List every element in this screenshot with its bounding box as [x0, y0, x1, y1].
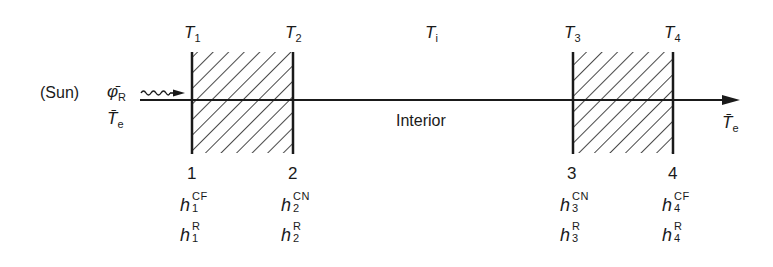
- ext-temp-left-symbol: T̄: [107, 109, 117, 128]
- temp-subscript: 4: [674, 32, 680, 44]
- temp-subscript: 3: [574, 32, 580, 44]
- temp-Ti: Ti: [425, 24, 438, 41]
- h-symbol: h: [281, 195, 291, 215]
- rad-coeff-4: h R4: [662, 225, 672, 246]
- surface-number-1: 1: [187, 165, 196, 182]
- rad-coeff-2: h R2: [281, 225, 291, 246]
- temp-T3: T3: [564, 24, 581, 41]
- sun-label: (Sun): [40, 85, 79, 101]
- coeff-superscript: CF: [192, 191, 208, 202]
- coeff-subscript: 3: [572, 203, 578, 214]
- surface-number-2: 2: [288, 165, 297, 182]
- conv-coeff-2: h CN2: [281, 195, 291, 216]
- coeff-superscript: R: [192, 221, 200, 232]
- wall-right: [573, 52, 673, 154]
- temp-T2: T2: [285, 24, 302, 41]
- h-symbol: h: [560, 195, 570, 215]
- temp-subscript: i: [435, 32, 437, 44]
- h-symbol: h: [180, 195, 190, 215]
- conv-coeff-3: h CN3: [560, 195, 570, 216]
- exterior-temp-left: T̄e: [107, 110, 124, 127]
- solar-flux-symbol: φ̄R: [107, 83, 126, 100]
- coeff-subscript: 2: [293, 203, 299, 214]
- wall-diagram-graphics: [0, 0, 773, 267]
- h-symbol: h: [662, 225, 672, 245]
- wall-left: [192, 52, 293, 154]
- rad-coeff-1: h R1: [180, 225, 190, 246]
- coeff-subscript: 4: [674, 233, 680, 244]
- h-symbol: h: [560, 225, 570, 245]
- coeff-superscript: R: [674, 221, 682, 232]
- rad-coeff-3: h R3: [560, 225, 570, 246]
- coeff-subscript: 2: [293, 233, 299, 244]
- temp-subscript: 2: [295, 32, 301, 44]
- ext-temp-right-subscript: e: [732, 122, 738, 134]
- interior-label: Interior: [396, 113, 446, 129]
- temp-T4: T4: [664, 24, 681, 41]
- coeff-subscript: 4: [674, 203, 680, 214]
- coeff-superscript: R: [293, 221, 301, 232]
- coeff-superscript: CF: [674, 191, 690, 202]
- h-symbol: h: [281, 225, 291, 245]
- temp-symbol: T: [184, 23, 194, 42]
- coeff-superscript: R: [572, 221, 580, 232]
- ext-temp-left-subscript: e: [117, 118, 123, 130]
- solar-radiation-wavy-arrow: [141, 90, 185, 97]
- h-symbol: h: [662, 195, 672, 215]
- sun-text: (Sun): [40, 84, 79, 101]
- coeff-subscript: 1: [192, 203, 198, 214]
- coeff-subscript: 1: [192, 233, 198, 244]
- temp-T1: T1: [184, 24, 201, 41]
- coeff-subscript: 3: [572, 233, 578, 244]
- temp-symbol: T: [564, 23, 574, 42]
- coeff-superscript: CN: [293, 191, 310, 202]
- exterior-temp-right: T̄e: [722, 114, 739, 131]
- h-symbol: h: [180, 225, 190, 245]
- flux-subscript: R: [118, 91, 126, 103]
- flux-symbol: φ̄: [107, 82, 118, 101]
- ext-temp-right-symbol: T̄: [722, 113, 732, 132]
- temp-symbol: T: [285, 23, 295, 42]
- temp-subscript: 1: [194, 32, 200, 44]
- conv-coeff-4: h CF4: [662, 195, 672, 216]
- conv-coeff-1: h CF1: [180, 195, 190, 216]
- surface-number-3: 3: [567, 165, 576, 182]
- temp-symbol: T: [664, 23, 674, 42]
- temp-symbol: T: [425, 23, 435, 42]
- surface-number-4: 4: [668, 165, 677, 182]
- coeff-superscript: CN: [572, 191, 589, 202]
